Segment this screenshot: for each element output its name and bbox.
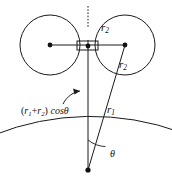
- right-circle-center-dot: [123, 43, 128, 48]
- label-height-formula: (r1+r2) cosθ: [21, 106, 69, 118]
- formula-pointer-arrowhead: [73, 89, 80, 95]
- label-r1-diagonal-subscript: 1: [111, 108, 115, 117]
- label-r2-top-subscript: 2: [105, 26, 109, 35]
- label-theta: θ: [110, 149, 115, 159]
- geometry-figure: r2 r2 r1 θ (r1+r2) cosθ: [0, 0, 172, 180]
- formula-cos-function: cos: [50, 105, 63, 116]
- figure-canvas: [0, 0, 172, 180]
- left-circle-center-dot: [48, 43, 53, 48]
- formula-close-paren: ): [45, 105, 48, 116]
- label-r2-top: r2: [101, 22, 109, 35]
- formula-theta-var: θ: [64, 105, 69, 116]
- label-r2-diagonal: r2: [119, 59, 127, 72]
- label-r1-diagonal: r1: [107, 104, 115, 117]
- big-arc: [0, 116, 172, 135]
- label-r2-diagonal-subscript: 2: [123, 63, 127, 72]
- tangent-point-dot: [86, 44, 91, 49]
- apex-dot: [85, 167, 90, 172]
- formula-pointer-arrow: [63, 91, 80, 104]
